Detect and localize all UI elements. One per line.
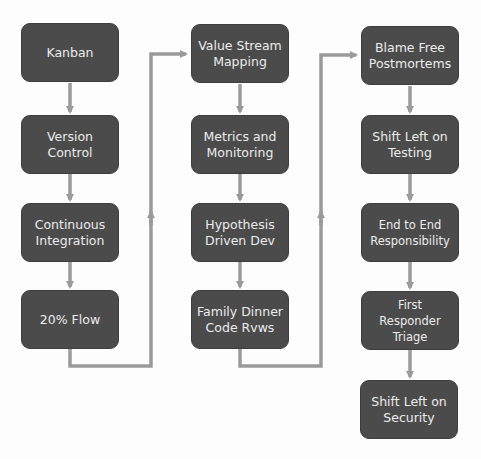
node-kanban: Kanban [21, 23, 119, 82]
node-hypothesis-driven-dev: Hypothesis Driven Dev [191, 203, 289, 262]
node-first-responder-triage: First Responder Triage [361, 291, 459, 350]
node-label: Kanban [46, 45, 93, 61]
node-label: Value Stream Mapping [198, 38, 282, 70]
node-label: End to End Responsibility [370, 217, 450, 249]
node-label: Shift Left on Security [371, 394, 446, 426]
node-blame-free-postmortems: Blame Free Postmortems [361, 26, 459, 85]
node-label: Version Control [47, 129, 93, 161]
node-label: First Responder Triage [366, 297, 454, 345]
node-metrics-and-monitoring: Metrics and Monitoring [191, 115, 289, 174]
node-label: Hypothesis Driven Dev [205, 217, 275, 249]
node-label: Shift Left on Testing [372, 129, 447, 161]
node-version-control: Version Control [21, 115, 119, 174]
node-label: Family Dinner Code Rvws [197, 304, 283, 336]
node-label: Continuous Integration [35, 217, 106, 249]
node-label: Metrics and Monitoring [204, 129, 277, 161]
node-label: 20% Flow [40, 312, 100, 328]
node-family-dinner-code-reviews: Family Dinner Code Rvws [191, 290, 289, 349]
node-shift-left-security: Shift Left on Security [360, 380, 458, 439]
node-label: Blame Free Postmortems [369, 40, 451, 72]
node-shift-left-testing: Shift Left on Testing [361, 115, 459, 174]
node-end-to-end-responsibility: End to End Responsibility [361, 203, 459, 262]
node-continuous-integration: Continuous Integration [21, 203, 119, 262]
node-value-stream-mapping: Value Stream Mapping [191, 24, 289, 83]
node-20-percent-flow: 20% Flow [21, 290, 119, 349]
